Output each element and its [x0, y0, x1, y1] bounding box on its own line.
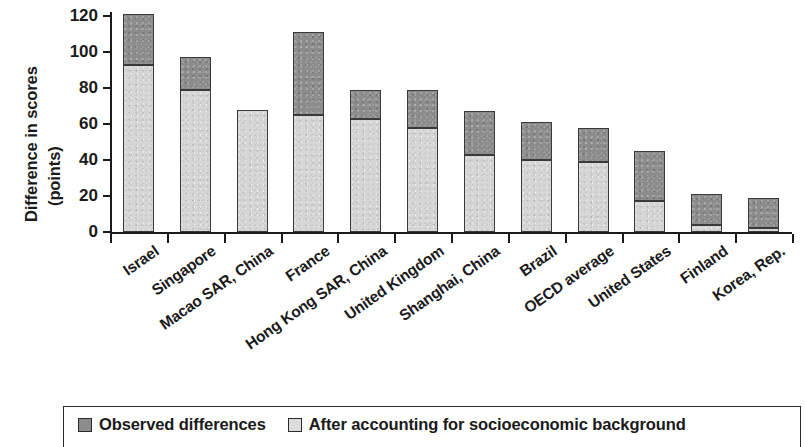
legend-label-adjusted: After accounting for socioeconomic backg… — [309, 415, 686, 434]
legend-swatch-light-icon — [288, 418, 302, 432]
legend-item-adjusted: After accounting for socioeconomic backg… — [288, 415, 686, 434]
x-axis-tick-labels: IsraelSingaporeMacao SAR, ChinaFranceHon… — [0, 0, 805, 447]
x-axis-label-israel: Israel — [120, 242, 163, 279]
x-axis-label-united-kingdom: United Kingdom — [341, 242, 447, 324]
legend-item-observed: Observed differences — [78, 415, 266, 434]
chart-figure: Difference in scores (points) 0204060801… — [0, 0, 805, 447]
x-axis-label-shanghai-china: Shanghai, China — [396, 242, 503, 325]
chart-legend: Observed differences After accounting fo… — [63, 406, 801, 447]
x-axis-label-brazil: Brazil — [517, 242, 561, 280]
legend-swatch-dark-icon — [78, 418, 92, 432]
legend-label-observed: Observed differences — [99, 415, 266, 434]
